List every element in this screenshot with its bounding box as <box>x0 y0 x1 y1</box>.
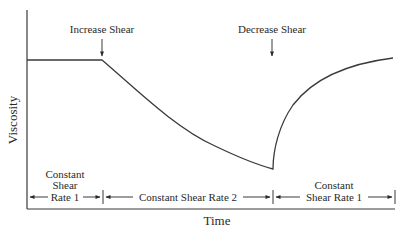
interval-1-label-line2: Shear <box>52 179 77 191</box>
y-axis-label: Viscosity <box>5 95 20 144</box>
decrease-shear-label: Decrease Shear <box>238 23 306 35</box>
x-axis-label: Time <box>204 213 231 228</box>
interval-1-label-line3: Rate 1 <box>51 191 79 203</box>
interval-3-label-line1: Constant <box>314 179 353 191</box>
increase-shear-label: Increase Shear <box>70 23 135 35</box>
viscosity-curve <box>27 58 393 169</box>
viscosity-time-diagram: Viscosity Time Increase Shear Decrease S… <box>0 0 409 233</box>
interval-3-label-line2: Shear Rate 1 <box>306 191 362 203</box>
interval-2-label: Constant Shear Rate 2 <box>139 191 237 203</box>
